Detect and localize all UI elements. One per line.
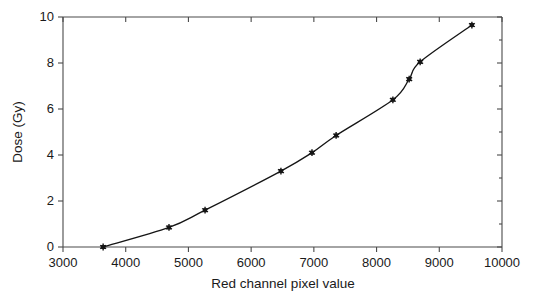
y-tick-label: 6 (47, 101, 54, 116)
x-tick-label: 6000 (237, 255, 266, 270)
data-point-marker (278, 168, 284, 175)
data-point-marker (333, 132, 339, 139)
dose-calibration-chart: 0246810 30004000500060007000800090001000… (0, 0, 541, 303)
data-point-marker (309, 149, 315, 156)
y-tick-label: 10 (40, 9, 54, 24)
x-axis-tick-labels: 300040005000600070008000900010000 (49, 255, 521, 270)
y-tick-label: 8 (47, 55, 54, 70)
data-point-marker (166, 224, 172, 231)
data-point-marker (202, 207, 208, 214)
y-axis-title: Dose (Gy) (10, 101, 25, 163)
dose-response-curve (103, 25, 472, 247)
y-tick-label: 4 (47, 147, 54, 162)
x-tick-label: 10000 (484, 255, 520, 270)
axis-frame (63, 17, 502, 247)
data-point-marker (469, 22, 475, 29)
y-axis-ticks (58, 17, 502, 247)
figure-container: 0246810 30004000500060007000800090001000… (0, 0, 541, 303)
x-tick-label: 9000 (425, 255, 454, 270)
y-axis-tick-labels: 0246810 (40, 9, 54, 254)
data-point-markers (100, 22, 475, 251)
x-tick-label: 3000 (49, 255, 78, 270)
x-tick-label: 4000 (111, 255, 140, 270)
x-tick-label: 7000 (299, 255, 328, 270)
x-tick-label: 5000 (174, 255, 203, 270)
x-axis-ticks (63, 17, 502, 252)
y-tick-label: 2 (47, 193, 54, 208)
x-tick-label: 8000 (362, 255, 391, 270)
x-axis-title: Red channel pixel value (211, 276, 354, 291)
y-tick-label: 0 (47, 239, 54, 254)
